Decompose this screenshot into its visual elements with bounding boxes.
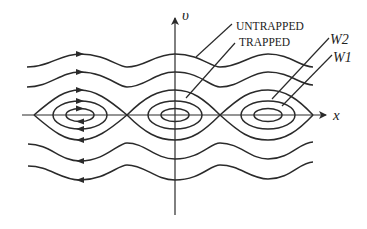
trapped-pointer (186, 43, 235, 98)
trapped-label: TRAPPED (239, 36, 290, 48)
untrapped-orbit-lower-1 (28, 142, 313, 161)
untrapped-label: UNTRAPPED (236, 20, 304, 32)
v-axis-label: υ (182, 7, 189, 23)
w2-label: W2 (330, 32, 349, 47)
untrapped-orbit-upper-2 (27, 72, 313, 87)
separatrix-top (34, 90, 313, 115)
x-axis-label: x (332, 107, 340, 123)
separatrix-bottom (34, 115, 313, 140)
phase-space-diagram: υ x UNTRAPPED TRAPPED W2 W1 (0, 0, 367, 229)
untrapped-orbit-upper-1 (27, 54, 313, 67)
w1-label: W1 (333, 50, 352, 65)
untrapped-orbit-lower-2 (28, 162, 313, 180)
flow-arrows (76, 51, 84, 183)
